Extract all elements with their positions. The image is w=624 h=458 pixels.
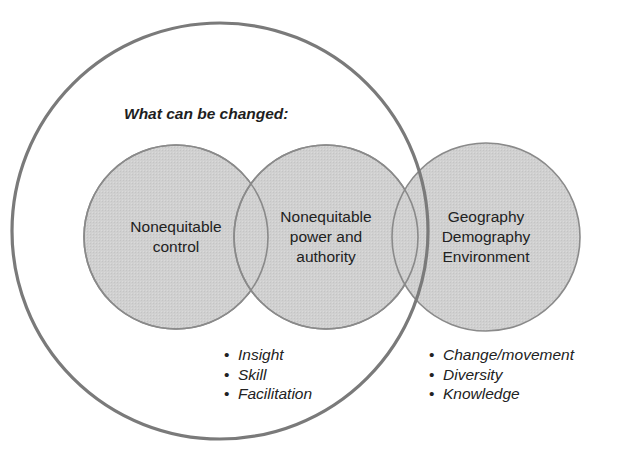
bullet-item: Facilitation (224, 384, 312, 404)
bullet-item: Knowledge (429, 384, 574, 404)
label-line: Nonequitable (256, 207, 396, 227)
bullet-item: Insight (224, 345, 312, 365)
bullet-item: Skill (224, 365, 312, 385)
heading-what-can-be-changed: What can be changed: (124, 105, 289, 123)
bullet-item: Change/movement (429, 345, 574, 365)
label-line: Nonequitable (106, 217, 246, 237)
label-line: power and (256, 227, 396, 247)
label-line: Environment (416, 247, 556, 267)
left-bullet-list: Insight Skill Facilitation (224, 345, 312, 404)
label-geography-demography-environment: Geography Demography Environment (416, 207, 556, 267)
label-line: Geography (416, 207, 556, 227)
label-nonequitable-control: Nonequitable control (106, 217, 246, 257)
label-line: authority (256, 247, 396, 267)
bullet-item: Diversity (429, 365, 574, 385)
label-line: Demography (416, 227, 556, 247)
label-nonequitable-power: Nonequitable power and authority (256, 207, 396, 267)
right-bullet-list: Change/movement Diversity Knowledge (429, 345, 574, 404)
label-line: control (106, 237, 246, 257)
